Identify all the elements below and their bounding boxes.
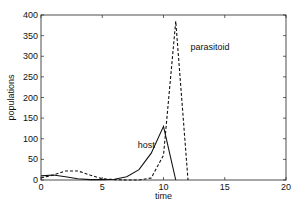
y-tick-label: 50: [28, 154, 38, 164]
x-tick-label: 5: [100, 182, 105, 192]
x-axis-label: time: [155, 191, 172, 201]
x-tick-label: 0: [38, 182, 43, 192]
y-tick-label: 0: [33, 175, 38, 185]
y-tick-label: 200: [23, 93, 38, 103]
y-tick-label: 150: [23, 113, 38, 123]
axes: 05101520050100150200250300350400: [23, 10, 291, 192]
y-tick-label: 100: [23, 134, 38, 144]
y-tick-label: 300: [23, 51, 38, 61]
y-tick-label: 400: [23, 10, 38, 20]
y-tick-label: 250: [23, 72, 38, 82]
parasitoid-line: [41, 21, 188, 180]
y-axis-label: populations: [6, 74, 16, 121]
host-annotation: host: [138, 140, 156, 150]
parasitoid-annotation: parasitoid: [190, 42, 229, 52]
plot-frame: [41, 15, 286, 180]
x-tick-label: 20: [281, 182, 291, 192]
y-tick-label: 350: [23, 31, 38, 41]
x-tick-label: 15: [220, 182, 230, 192]
series-group: [41, 21, 188, 180]
population-chart: 05101520050100150200250300350400 time po…: [0, 0, 304, 206]
